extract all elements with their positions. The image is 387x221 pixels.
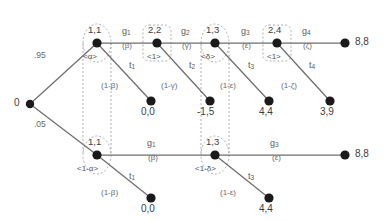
node-top-1	[92, 38, 101, 47]
node-label-top-3: 1,3	[206, 25, 219, 35]
action-g3-top-sub: 3	[246, 29, 250, 36]
action-g2-top: g2	[181, 27, 190, 37]
edge-t1-top	[97, 43, 151, 101]
action-t3-bot-sub: 3	[251, 174, 255, 181]
action-t2-top-sub: 2	[192, 63, 196, 70]
action-g4-top-sub: 4	[307, 29, 311, 36]
belief-bot-1: <1-α>	[77, 165, 98, 173]
terminal-t1-bot	[146, 193, 155, 202]
tree-edges	[30, 43, 345, 198]
action-t2-top: t2	[189, 61, 195, 71]
action-g1-bot: g1	[147, 139, 156, 149]
action-g1-top-sub: 1	[127, 29, 131, 36]
edge-t4-top	[277, 43, 330, 101]
action-t3-top-sub: 3	[251, 63, 255, 70]
prob-t1-bot: (1-β)	[101, 189, 118, 197]
prob-g4-top: (ζ)	[303, 42, 312, 50]
game-tree-diagram: 0 .95 .05 1,1 2,2 1,3 2,4 1,1 1,3 <α> <1…	[0, 0, 387, 221]
belief-top-3: <δ>	[201, 53, 215, 61]
belief-top-4: <1>	[267, 53, 281, 61]
action-g3-top: g3	[241, 27, 250, 37]
prob-g3-bot: (ε)	[272, 154, 281, 162]
terminal-t4-top	[325, 96, 334, 105]
belief-bot-3: <1-δ>	[195, 165, 216, 173]
edge-t3-top	[215, 43, 269, 101]
payoff-t1-top: 0,0	[141, 107, 155, 117]
node-top-4	[272, 38, 281, 47]
prob-g1-bot: (β)	[148, 154, 158, 162]
action-g3-bot: g3	[270, 139, 279, 149]
prob-t2-top: (1-γ)	[161, 82, 177, 90]
action-g3-bot-sub: 3	[275, 141, 279, 148]
prob-g3-top: (ε)	[242, 42, 251, 50]
action-t1-bot-sub: 1	[132, 174, 136, 181]
action-t1-top: t1	[129, 61, 135, 71]
action-t3-top: t3	[248, 61, 254, 71]
payoff-t2-top: -1,5	[197, 107, 214, 117]
node-label-top-1: 1,1	[88, 25, 101, 35]
action-g1-top: g1	[122, 27, 131, 37]
node-root	[26, 100, 34, 108]
prob-g2-top: (γ)	[182, 42, 191, 50]
chance-probability-low: .05	[34, 120, 46, 129]
node-label-bot-1: 1,1	[88, 137, 101, 147]
action-t3-bot: t3	[248, 172, 254, 182]
root-label: 0	[14, 98, 20, 108]
prob-t3-bot: (1-ε)	[220, 189, 236, 197]
prob-t1-top: (1-β)	[101, 82, 118, 90]
belief-top-2: <1>	[147, 53, 161, 61]
action-t1-top-sub: 1	[132, 63, 136, 70]
action-g1-bot-sub: 1	[152, 141, 156, 148]
payoff-t4-top: 3,9	[320, 107, 334, 117]
action-t4-top: t4	[309, 61, 315, 71]
terminal-t2-top	[205, 96, 214, 105]
action-t4-top-sub: 4	[312, 63, 316, 70]
prob-t4-top: (1-ζ)	[281, 82, 297, 90]
terminal-t1-top	[146, 96, 155, 105]
terminal-g4-top	[340, 38, 349, 47]
payoff-g4-top: 8,8	[355, 37, 369, 47]
chance-probability-high: .95	[34, 51, 46, 60]
node-top-2	[152, 38, 161, 47]
node-top-3	[210, 38, 219, 47]
node-label-top-2: 2,2	[148, 25, 161, 35]
terminal-t3-bot	[264, 193, 273, 202]
action-t1-bot: t1	[129, 172, 135, 182]
payoff-g3-bot: 8,8	[355, 149, 369, 159]
prob-g1-top: (β)	[122, 42, 132, 50]
belief-top-1: <α>	[83, 53, 97, 61]
action-g4-top: g4	[302, 27, 311, 37]
node-bot-1	[92, 150, 101, 159]
prob-t3-top: (1-ε)	[220, 82, 236, 90]
terminal-g3-bot	[340, 150, 349, 159]
node-label-bot-3: 1,3	[206, 137, 219, 147]
terminal-t3-top	[264, 96, 273, 105]
edge-chance-low	[30, 104, 97, 155]
payoff-t1-bot: 0,0	[141, 204, 155, 214]
payoff-t3-top: 4,4	[259, 107, 273, 117]
payoff-t3-bot: 4,4	[259, 204, 273, 214]
node-label-top-4: 2,4	[268, 25, 281, 35]
node-bot-3	[210, 150, 219, 159]
action-g2-top-sub: 2	[186, 29, 190, 36]
